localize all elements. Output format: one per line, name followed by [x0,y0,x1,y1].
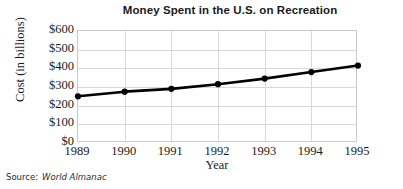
y-axis-tick-label: $500 [28,41,74,56]
data-point-marker [75,93,81,99]
y-axis-tick-label: $100 [28,115,74,130]
data-point-marker [122,89,128,95]
source-value: World Almanac [42,172,107,182]
series-markers [75,62,361,99]
chart-title: Money Spent in the U.S. on Recreation [70,4,390,16]
source-label: Source: [6,172,38,182]
x-axis-title: Year [77,158,357,173]
y-axis-tick-label: $400 [28,59,74,74]
y-axis-title: Cost (in billions) [13,2,28,118]
plot-area [77,30,357,142]
y-axis-tick-label: $200 [28,97,74,112]
data-point-marker [262,76,268,82]
data-point-marker [168,86,174,92]
x-axis-tick-label: 1995 [329,144,385,159]
source-note: Source:World Almanac [6,172,107,182]
y-axis-tick-label: $600 [28,22,74,37]
line-series [78,31,358,143]
data-point-marker [308,69,314,75]
series-line [78,66,358,97]
data-point-marker [215,81,221,87]
data-point-marker [355,62,361,68]
chart-figure: Money Spent in the U.S. on Recreation $0… [0,0,403,189]
y-axis-tick-label: $300 [28,78,74,93]
y-axis-tick-labels: $0$100$200$300$400$500$600 [26,0,74,189]
